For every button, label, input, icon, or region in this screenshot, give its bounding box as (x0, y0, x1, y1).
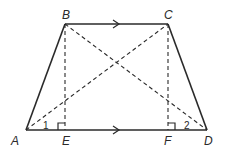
diagonal-bd (65, 24, 207, 130)
angle-1-label: 1 (43, 120, 49, 131)
label-e: E (62, 134, 71, 148)
diagonal-ac (26, 24, 168, 130)
label-a: A (10, 134, 19, 148)
right-angle-f-icon (168, 123, 175, 130)
side-cd (168, 24, 207, 130)
label-b: B (62, 8, 70, 22)
label-f: F (164, 134, 172, 148)
trapezoid-diagram: B C A E F D 1 2 (0, 0, 229, 159)
label-c: C (164, 8, 173, 22)
label-d: D (204, 134, 213, 148)
right-angle-e-icon (58, 123, 65, 130)
side-ab (26, 24, 65, 130)
angle-2-label: 2 (184, 120, 190, 131)
